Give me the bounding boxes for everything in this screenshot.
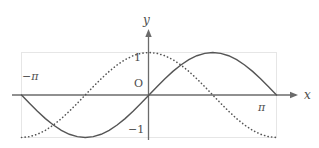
tick-label-negative-pi: −π [22, 71, 38, 82]
x-axis-arrowhead [290, 92, 298, 98]
y-axis-arrowhead [145, 29, 151, 37]
tick-label-one: 1 [134, 52, 141, 63]
plot-canvas [0, 0, 319, 148]
tick-label-pi: π [258, 102, 265, 113]
sine-cosine-graph-figure: y x −π π 1 −1 O [0, 0, 319, 148]
x-axis-label: x [304, 89, 311, 101]
origin-label: O [134, 78, 143, 89]
y-axis-label: y [143, 14, 150, 26]
tick-label-negative-one: −1 [128, 124, 144, 135]
